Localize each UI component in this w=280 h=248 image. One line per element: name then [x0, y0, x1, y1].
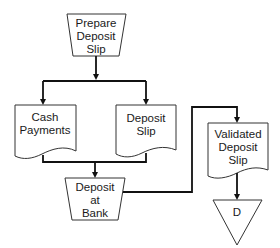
node-label-line: Bank [82, 207, 108, 219]
flowchart: Prepare Deposit Slip Cash Payments Depos… [0, 0, 280, 248]
node-validated-deposit-slip: Validated Deposit Slip [208, 123, 268, 178]
node-label-line: Payments [19, 124, 70, 136]
node-label-line: Deposit [219, 141, 259, 153]
file-label: D [233, 206, 241, 218]
node-deposit-at-bank: Deposit at Bank [65, 178, 125, 220]
node-label-line: Slip [228, 154, 247, 166]
node-label-line: Validated [214, 128, 261, 140]
node-file-d: D [213, 200, 262, 245]
node-label-line: Deposit [77, 30, 117, 42]
node-label-line: Prepare [76, 17, 117, 29]
node-deposit-slip: Deposit Slip [116, 105, 176, 157]
node-label-line: Slip [136, 125, 155, 137]
connector-prepare-split [40, 56, 149, 105]
node-label-line: at [90, 194, 100, 206]
node-cash-payments: Cash Payments [15, 105, 76, 158]
node-label-line: Deposit [127, 112, 167, 124]
node-prepare-deposit-slip: Prepare Deposit Slip [67, 14, 126, 56]
connector-validated-file [234, 173, 240, 200]
node-label-line: Slip [86, 43, 105, 55]
node-label-line: Cash [32, 111, 59, 123]
node-label-line: Deposit [76, 181, 116, 193]
